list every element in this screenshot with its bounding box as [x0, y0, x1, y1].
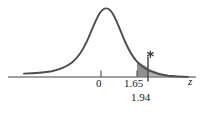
x-tick-label-zero: 0	[96, 78, 102, 89]
normal-curve	[24, 8, 188, 77]
x-label-test-statistic: 1.94	[131, 92, 150, 103]
x-tick-label-critical-value: 1.65	[124, 78, 143, 89]
x-axis-label: z	[188, 76, 192, 87]
distribution-plot	[0, 0, 210, 114]
normal-distribution-figure: 0 1.65 1.94 z	[0, 0, 210, 114]
asterisk-marker-icon	[148, 51, 154, 57]
